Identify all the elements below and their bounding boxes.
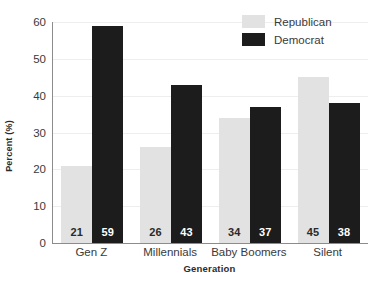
bar-label-millennials-republican: 26 — [149, 227, 162, 243]
bar-group-gen-z: 21 59 — [53, 22, 132, 243]
bar-label-baby-boomers-democrat: 37 — [259, 227, 272, 243]
legend-item-republican[interactable]: Republican — [242, 14, 332, 29]
bar-label-millennials-democrat: 43 — [180, 227, 193, 243]
bar-label-gen-z-democrat: 59 — [102, 227, 115, 243]
bar-group-millennials: 26 43 — [132, 22, 211, 243]
x-tick-silent: Silent — [288, 246, 367, 262]
legend-swatch-republican-icon — [242, 15, 265, 28]
bar-label-silent-republican: 45 — [307, 227, 320, 243]
bar-baby-boomers-democrat[interactable]: 37 — [250, 107, 281, 243]
bar-gen-z-republican[interactable]: 21 — [61, 166, 92, 243]
y-axis-tick-labels: 60 50 40 30 20 10 0 — [0, 22, 52, 243]
x-axis-tick-labels: Gen Z Millennials Baby Boomers Silent — [52, 246, 367, 262]
bar-gen-z-democrat[interactable]: 59 — [92, 26, 123, 243]
bar-label-gen-z-republican: 21 — [71, 227, 84, 243]
legend-label-democrat: Democrat — [274, 34, 324, 46]
bar-group-silent: 45 38 — [289, 22, 368, 243]
y-tick-20: 20 — [6, 163, 52, 175]
bar-label-silent-democrat: 38 — [338, 227, 351, 243]
chart-legend: Republican Democrat — [242, 14, 332, 50]
bar-label-baby-boomers-republican: 34 — [228, 227, 241, 243]
y-tick-30: 30 — [6, 127, 52, 139]
bar-millennials-democrat[interactable]: 43 — [171, 85, 202, 243]
y-tick-0: 0 — [6, 237, 52, 249]
bar-silent-republican[interactable]: 45 — [298, 77, 329, 243]
x-tick-millennials: Millennials — [131, 246, 210, 262]
legend-item-democrat[interactable]: Democrat — [242, 32, 332, 47]
y-tick-60: 60 — [6, 16, 52, 28]
legend-swatch-democrat-icon — [242, 33, 265, 46]
y-tick-10: 10 — [6, 200, 52, 212]
bar-millennials-republican[interactable]: 26 — [140, 147, 171, 243]
y-tick-40: 40 — [6, 90, 52, 102]
bar-group-baby-boomers: 34 37 — [211, 22, 290, 243]
bar-baby-boomers-republican[interactable]: 34 — [219, 118, 250, 243]
x-axis-title: Generation — [52, 263, 367, 274]
x-tick-gen-z: Gen Z — [52, 246, 131, 262]
legend-label-republican: Republican — [274, 16, 332, 28]
bar-groups: 21 59 26 43 34 37 — [53, 22, 368, 243]
plot-area: 21 59 26 43 34 37 — [52, 22, 368, 244]
y-tick-50: 50 — [6, 53, 52, 65]
bar-chart-figure: Percent (%) 60 50 40 30 20 10 0 21 59 — [0, 0, 373, 291]
bar-silent-democrat[interactable]: 38 — [329, 103, 360, 243]
x-tick-baby-boomers: Baby Boomers — [210, 246, 289, 262]
